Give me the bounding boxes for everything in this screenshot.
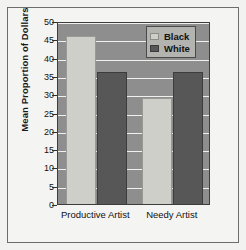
bar-black-1 <box>142 98 172 204</box>
legend: Black White <box>146 26 196 58</box>
legend-label-white: White <box>164 43 190 54</box>
y-tick-label: 15 <box>28 145 54 155</box>
legend-label-black: Black <box>164 31 189 42</box>
legend-swatch-white-icon <box>150 45 159 52</box>
legend-item-black: Black <box>150 30 190 42</box>
bar-white-0 <box>97 72 127 204</box>
bar-white-1 <box>173 72 203 204</box>
y-tick-label: 40 <box>28 54 54 64</box>
y-tick-label: 5 <box>28 182 54 192</box>
gridline <box>58 23 209 24</box>
y-tick-label: 45 <box>28 35 54 45</box>
x-tick-label: Needy Artist <box>122 209 222 220</box>
legend-swatch-black-icon <box>150 33 159 40</box>
y-tick-label: 30 <box>28 90 54 100</box>
figure-container: Mean Proportion of Dollars 0510152025303… <box>0 0 246 250</box>
y-tick-label: 20 <box>28 127 54 137</box>
y-tick-label: 50 <box>28 17 54 27</box>
y-tick-label: 35 <box>28 72 54 82</box>
bar-black-0 <box>66 36 96 204</box>
y-tick-label: 25 <box>28 109 54 119</box>
y-tick-label: 10 <box>28 163 54 173</box>
legend-item-white: White <box>150 42 190 54</box>
y-tick-mark <box>52 205 57 206</box>
